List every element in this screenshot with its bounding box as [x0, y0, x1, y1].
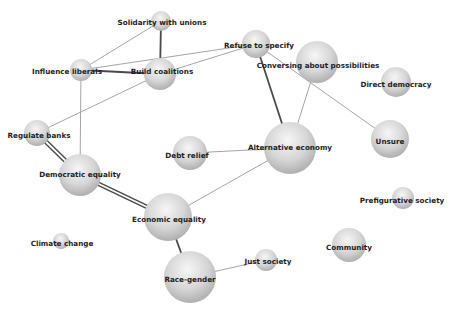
node-label-race: Race-gender	[164, 275, 216, 284]
node-label-build: Build coalitions	[131, 67, 193, 76]
node-label-conversing: Conversing about possibilities	[257, 61, 380, 70]
node-label-economic: Economic equality	[132, 215, 206, 224]
node-label-unsure: Unsure	[376, 137, 405, 146]
node-label-refuse: Refuse to specify	[224, 41, 294, 50]
node-label-community: Community	[326, 243, 372, 252]
node-label-prefigurative: Prefigurative society	[360, 196, 445, 205]
node-label-alternative: Alternative economy	[248, 143, 332, 152]
node-label-solidarity: Solidarity with unions	[118, 18, 207, 27]
node-label-climate: Climate change	[31, 239, 94, 248]
nodes-layer	[24, 11, 414, 303]
node-label-influence: Influence liberals	[32, 67, 102, 76]
edge-build-regulate	[37, 74, 160, 133]
node-label-regulate: Regulate banks	[8, 131, 71, 140]
node-label-democratic: Democratic equality	[39, 170, 121, 179]
node-label-debt: Debt relief	[165, 151, 209, 160]
network-graph: Solidarity with unionsInfluence liberals…	[0, 0, 449, 316]
node-label-direct: Direct democracy	[360, 80, 431, 89]
node-label-just: Just society	[244, 257, 292, 266]
